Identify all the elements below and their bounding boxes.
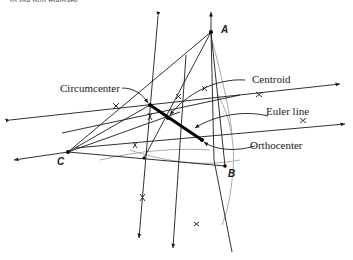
circumcenter-point (148, 103, 152, 107)
orthocenter-point (200, 138, 204, 142)
vertex-B-point (223, 164, 227, 168)
centroid-point (166, 116, 170, 120)
geometry-figure (0, 0, 353, 260)
perp-bisector-vertical-1 (139, 16, 158, 238)
centroid-label: Centroid (252, 74, 291, 85)
vertex-A-point (209, 30, 213, 34)
midpoint-CB (143, 157, 146, 160)
orthocenter-leader (204, 142, 255, 149)
vertex-B-label: B (228, 169, 235, 179)
vertex-C-point (66, 150, 70, 154)
median-from-C (68, 112, 180, 152)
construction-arcs (100, 40, 240, 225)
centroid-leader (170, 80, 245, 115)
vertex-A-label: A (221, 25, 228, 35)
orthocenter-label: Orthocenter (250, 140, 303, 151)
perp-bisector-2 (75, 124, 345, 148)
callout-leaders (122, 80, 268, 150)
vertical-lines (139, 16, 186, 248)
cropped-header-text: to the two medians (10, 0, 92, 2)
euler-line-label: Euler line (266, 106, 309, 117)
perp-bisector-vertical-2 (173, 55, 186, 248)
euler-line-diagram: to the two medians (0, 0, 353, 260)
lines-from-A (68, 12, 232, 252)
euler-line-segment (150, 105, 202, 140)
vertex-C-label: C (57, 157, 64, 167)
altitude-from-A (211, 32, 214, 160)
circumcenter-label: Circumcenter (60, 83, 120, 94)
